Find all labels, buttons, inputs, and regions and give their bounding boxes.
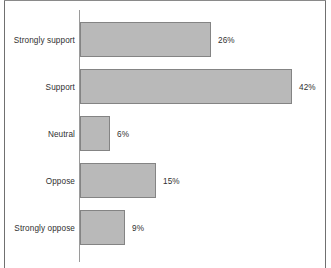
- bar[interactable]: [80, 163, 156, 198]
- bar-row: Neutral 6%: [0, 116, 331, 151]
- value-label: 26%: [218, 35, 235, 44]
- category-label: Oppose: [46, 176, 75, 185]
- bar-row: Strongly oppose 9%: [0, 210, 331, 245]
- category-label: Neutral: [48, 129, 75, 138]
- bar-row: Support 42%: [0, 69, 331, 104]
- value-label: 42%: [299, 82, 316, 91]
- bar-row: Strongly support 26%: [0, 22, 331, 57]
- value-label: 6%: [117, 129, 129, 138]
- value-label: 9%: [132, 223, 144, 232]
- bar[interactable]: [80, 210, 125, 245]
- bar-row: Oppose 15%: [0, 163, 331, 198]
- category-label: Strongly oppose: [14, 223, 75, 232]
- value-label: 15%: [163, 176, 180, 185]
- category-label: Strongly support: [14, 35, 75, 44]
- bar[interactable]: [80, 22, 211, 57]
- bar[interactable]: [80, 69, 292, 104]
- bar-chart: Strongly support 26% Support 42% Neutral…: [0, 0, 331, 268]
- bar[interactable]: [80, 116, 110, 151]
- category-label: Support: [46, 82, 75, 91]
- plot-area: Strongly support 26% Support 42% Neutral…: [0, 0, 331, 268]
